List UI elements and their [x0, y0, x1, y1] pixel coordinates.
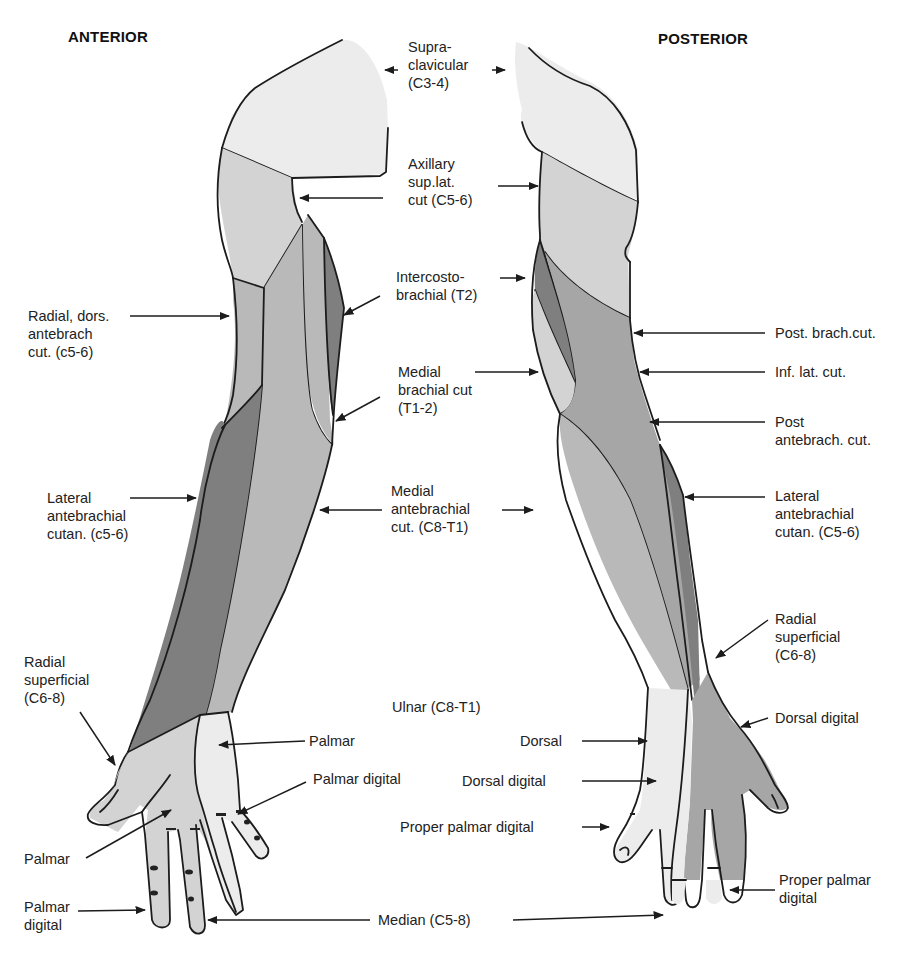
label-medial-brachial: Medial brachial cut (T1-2)	[398, 363, 472, 417]
label-post-brach-cut: Post. brach.cut.	[775, 324, 876, 342]
posterior-radial-superficial-zone	[684, 672, 788, 880]
label-radial-superficial-anterior: Radial superficial (C6-8)	[24, 653, 89, 707]
label-inf-lat-cut: Inf. lat. cut.	[775, 363, 846, 381]
label-lateral-antebrachial-anterior: Lateral antebrachial cutan. (c5-6)	[47, 489, 128, 543]
label-post-antebrach-cut: Post antebrach. cut.	[775, 413, 871, 449]
label-dorsal: Dorsal	[520, 732, 562, 750]
label-radial-dors-antebrach: Radial, dors. antebrach cut. (c5-6)	[28, 307, 109, 361]
label-palmar-digital-ulnar: Palmar digital	[313, 770, 401, 788]
label-dorsal-digital-ulnar: Dorsal digital	[462, 772, 546, 790]
dermatome-diagram	[0, 0, 912, 957]
label-medial-antebrachial: Medial antebrachial cut. (C8-T1)	[391, 482, 470, 536]
label-palmar-median: Palmar	[24, 850, 70, 868]
anterior-title: ANTERIOR	[68, 28, 148, 45]
posterior-proper-palmar-digital-tips	[672, 878, 722, 904]
posterior-arm	[515, 42, 788, 907]
label-proper-palmar-digital-ulnar: Proper palmar digital	[400, 818, 534, 836]
anterior-supraclavicular-zone	[222, 40, 388, 178]
posterior-post-brach-zone	[545, 252, 700, 690]
label-palmar-ulnar: Palmar	[309, 732, 355, 750]
label-palmar-digital-median: Palmar digital	[24, 898, 70, 934]
label-median: Median (C5-8)	[378, 911, 471, 929]
anterior-hand-ulnar-zone	[195, 712, 269, 915]
label-proper-palmar-digital-median: Proper palmar digital	[779, 871, 871, 907]
label-radial-superficial-posterior: Radial superficial (C6-8)	[775, 610, 840, 664]
label-supraclavicular: Supra- clavicular (C3-4)	[408, 38, 468, 92]
posterior-title: POSTERIOR	[658, 30, 748, 47]
anterior-arm	[88, 40, 388, 934]
label-ulnar: Ulnar (C8-T1)	[392, 698, 481, 716]
label-lateral-antebrachial-posterior: Lateral antebrachial cutan. (C5-6)	[775, 487, 860, 541]
label-intercostobrachial: Intercosto- brachial (T2)	[396, 268, 477, 304]
label-dorsal-digital-radial: Dorsal digital	[775, 709, 859, 727]
label-axillary: Axillary sup.lat. cut (C5-6)	[408, 155, 472, 209]
